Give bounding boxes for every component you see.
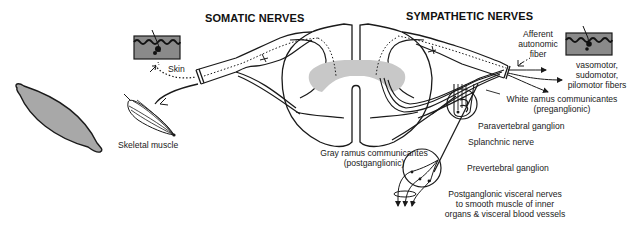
- label-gray-ramus: Gray ramus communicantes (postganglionic…: [318, 148, 430, 168]
- label-effector-line: sudomotor,: [562, 70, 632, 80]
- label-gray-ramus-line: (postganglionic): [318, 158, 430, 168]
- left-spinal-nerve: [196, 32, 318, 114]
- label-afferent-line: fiber: [514, 49, 562, 59]
- label-skin: Skin: [168, 64, 185, 74]
- spinal-cord: [282, 24, 432, 147]
- skeletal-muscle: [124, 94, 176, 137]
- label-skeletal-muscle: Skeletal muscle: [118, 140, 178, 150]
- label-prevertebral-ganglion: Prevertebral ganglion: [467, 163, 549, 173]
- label-effector-line: vasomotor,: [562, 60, 632, 70]
- label-postganglionic-line: organs & visceral blood vessels: [438, 209, 572, 219]
- skin-left: [134, 30, 180, 59]
- label-postganglionic-visceral: Postganglonic visceral nerves to smooth …: [438, 189, 572, 219]
- label-white-ramus-line: (preganglionic): [500, 104, 624, 114]
- label-afferent-line: Afferent: [514, 29, 562, 39]
- skin-right: [566, 26, 612, 55]
- label-white-ramus: White ramus communicantes (preganglionic…: [500, 94, 624, 114]
- smooth-muscle-cell: [16, 84, 102, 152]
- label-effector-fibers: vasomotor, sudomotor, pilomotor fibers: [562, 60, 632, 90]
- label-splanchnic-nerve: Splanchnic nerve: [468, 137, 534, 147]
- nerve-diagram: SOMATIC NERVES SYMPATHETIC NERVES Skin S…: [0, 0, 634, 230]
- label-white-ramus-line: White ramus communicantes: [500, 94, 624, 104]
- label-effector-line: pilomotor fibers: [562, 80, 632, 90]
- somatic-motor-fiber: [155, 84, 198, 104]
- label-paravertebral-ganglion: Paravertebral ganglion: [478, 121, 564, 131]
- splanchnic-nerve: [434, 84, 478, 172]
- motor-arrow-icon: [160, 98, 168, 105]
- label-postganglionic-line: Postganglonic visceral nerves: [438, 189, 572, 199]
- label-afferent-autonomic-fiber: Afferent autonomic fiber: [514, 29, 562, 59]
- title-somatic-nerves: SOMATIC NERVES: [205, 12, 304, 24]
- white-ramus-pointer: [486, 90, 500, 94]
- title-sympathetic-nerves: SYMPATHETIC NERVES: [406, 10, 533, 22]
- label-gray-ramus-line: Gray ramus communicantes: [318, 148, 430, 158]
- label-postganglionic-line: to smooth muscle of inner: [438, 199, 572, 209]
- label-afferent-line: autonomic: [514, 39, 562, 49]
